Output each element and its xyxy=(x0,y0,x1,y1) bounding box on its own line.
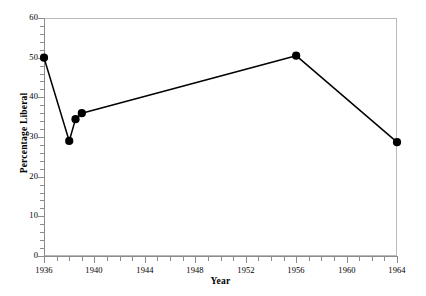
x-minor-tick xyxy=(57,257,58,261)
y-minor-tick xyxy=(40,74,44,75)
x-minor-tick xyxy=(359,257,360,261)
x-tick-1952 xyxy=(246,257,247,263)
x-tick-label-1936: 1936 xyxy=(24,265,64,275)
y-minor-tick xyxy=(40,113,44,114)
y-minor-tick xyxy=(40,208,44,209)
y-minor-tick xyxy=(40,193,44,194)
y-minor-tick xyxy=(40,248,44,249)
x-minor-tick xyxy=(157,257,158,261)
y-minor-tick xyxy=(40,81,44,82)
x-minor-tick xyxy=(271,257,272,261)
y-minor-tick xyxy=(40,169,44,170)
x-minor-tick xyxy=(170,257,171,261)
x-tick-label-1956: 1956 xyxy=(276,265,316,275)
y-minor-tick xyxy=(40,232,44,233)
y-minor-tick xyxy=(40,200,44,201)
y-minor-tick xyxy=(40,129,44,130)
x-tick-1936 xyxy=(44,257,45,263)
chart-container: 0102030405060 19361940194419481952195619… xyxy=(0,0,426,296)
x-minor-tick xyxy=(384,257,385,261)
y-minor-tick xyxy=(40,89,44,90)
x-tick-label-1952: 1952 xyxy=(226,265,266,275)
x-minor-tick xyxy=(372,257,373,261)
x-minor-tick xyxy=(69,257,70,261)
y-minor-tick xyxy=(40,224,44,225)
y-minor-tick xyxy=(40,66,44,67)
x-minor-tick xyxy=(183,257,184,261)
y-minor-tick xyxy=(40,26,44,27)
x-tick-1940 xyxy=(94,257,95,263)
x-minor-tick xyxy=(233,257,234,261)
x-minor-tick xyxy=(334,257,335,261)
x-tick-1944 xyxy=(145,257,146,263)
y-tick-20 xyxy=(38,177,44,178)
y-minor-tick xyxy=(40,240,44,241)
x-minor-tick xyxy=(107,257,108,261)
x-tick-label-1940: 1940 xyxy=(74,265,114,275)
y-tick-40 xyxy=(38,97,44,98)
x-tick-1948 xyxy=(195,257,196,263)
x-minor-tick xyxy=(321,257,322,261)
x-tick-label-1960: 1960 xyxy=(327,265,367,275)
y-tick-30 xyxy=(38,137,44,138)
x-minor-tick xyxy=(309,257,310,261)
x-minor-tick xyxy=(120,257,121,261)
x-axis-title: Year xyxy=(44,276,397,286)
x-tick-1964 xyxy=(397,257,398,263)
x-minor-tick xyxy=(258,257,259,261)
x-minor-tick xyxy=(82,257,83,261)
y-axis-line xyxy=(44,18,45,257)
y-minor-tick xyxy=(40,42,44,43)
y-minor-tick xyxy=(40,105,44,106)
y-minor-tick xyxy=(40,34,44,35)
y-minor-tick xyxy=(40,145,44,146)
y-tick-label-60: 60 xyxy=(2,13,38,22)
y-axis-title: Percentage Liberal xyxy=(19,53,29,213)
x-tick-label-1948: 1948 xyxy=(175,265,215,275)
y-minor-tick xyxy=(40,121,44,122)
y-tick-10 xyxy=(38,216,44,217)
x-tick-label-1964: 1964 xyxy=(377,265,417,275)
y-minor-tick xyxy=(40,50,44,51)
y-tick-label-0: 0 xyxy=(2,251,38,260)
plot-area-frame xyxy=(44,18,397,256)
y-minor-tick xyxy=(40,161,44,162)
x-minor-tick xyxy=(284,257,285,261)
y-minor-tick xyxy=(40,153,44,154)
x-minor-tick xyxy=(132,257,133,261)
y-minor-tick xyxy=(40,185,44,186)
x-tick-1960 xyxy=(347,257,348,263)
y-tick-50 xyxy=(38,58,44,59)
y-tick-60 xyxy=(38,18,44,19)
x-tick-1956 xyxy=(296,257,297,263)
x-minor-tick xyxy=(208,257,209,261)
x-minor-tick xyxy=(221,257,222,261)
x-tick-label-1944: 1944 xyxy=(125,265,165,275)
